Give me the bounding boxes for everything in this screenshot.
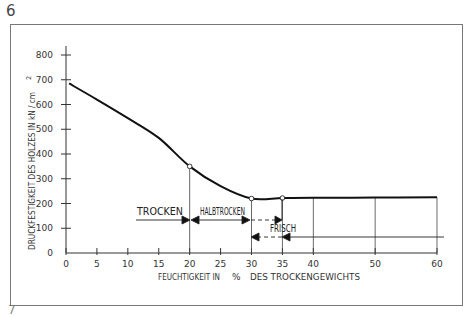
arrow-head-icon (242, 216, 250, 224)
y-tick-label: 200 (36, 199, 53, 209)
y-tick-label: 700 (36, 75, 53, 85)
x-tick-labels: 05101520253035405060 (63, 259, 443, 269)
x-tick-label: 50 (369, 259, 381, 269)
y-tick-label: 100 (36, 223, 53, 233)
x-tick-label: 10 (122, 259, 134, 269)
data-markers (187, 164, 284, 201)
y-tick-label: 300 (36, 174, 53, 184)
data-point-marker (249, 196, 254, 201)
x-tick-label: 60 (431, 259, 443, 269)
x-tick-label: 40 (308, 259, 320, 269)
arrow-head-icon (191, 216, 199, 224)
y-tick-label: 800 (36, 50, 53, 60)
arrow-head-icon (182, 216, 190, 224)
y-tick-label: 600 (36, 100, 53, 110)
x-tick-label: 15 (153, 259, 164, 269)
strength-curve (69, 83, 437, 199)
y-tick-label: 0 (47, 248, 53, 258)
x-axis-label-percent: % (232, 272, 241, 282)
arrow-head-icon (251, 233, 259, 241)
x-tick-label: 25 (215, 259, 226, 269)
x-tick-label: 35 (277, 259, 288, 269)
x-tick-label: 0 (63, 259, 69, 269)
data-point-marker (187, 164, 192, 169)
y-axis-label-superscript: 2 (25, 76, 33, 80)
y-tick-label: 500 (36, 124, 53, 134)
chart: TROCKEN HALBTROCKEN FRISCH DRUCKFESTIGKE… (0, 0, 467, 316)
figure-frame (11, 25, 463, 306)
x-tick-label: 20 (184, 259, 196, 269)
arrow-head-icon (282, 233, 290, 241)
label-halbtrocken: HALBTROCKEN (200, 206, 245, 217)
label-frisch: FRISCH (270, 223, 296, 234)
x-tick-label: 30 (246, 259, 258, 269)
y-tick-label: 400 (36, 149, 53, 159)
y-tick-labels: 0100200300400500600700800 (36, 50, 53, 258)
x-axis-label-part1: FEUCHTIGKEIT IN (158, 272, 220, 282)
x-axis-label-part2: DES TROCKENGEWICHTS (250, 272, 360, 282)
label-trocken: TROCKEN (136, 206, 183, 217)
x-tick-label: 5 (94, 259, 100, 269)
